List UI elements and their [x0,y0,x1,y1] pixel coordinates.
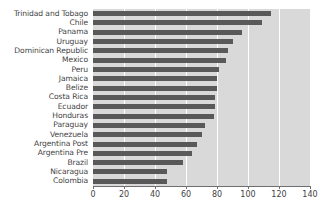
tick-mark [186,186,187,189]
category-label: Ecuador [0,102,91,111]
bar [93,95,215,100]
bar-row [93,84,310,93]
bar [93,76,217,81]
tick-label: 20 [119,190,129,199]
category-label: Brazil [0,158,91,167]
bar [93,86,217,91]
category-label: Jamaica [0,74,91,83]
bar-row [93,158,310,167]
category-label: Belize [0,84,91,93]
tick-label: 80 [212,190,222,199]
bar [93,142,197,147]
category-label: Dominican Republic [0,46,91,55]
category-label: Trinidad and Tobago [0,9,91,18]
bar-row [93,111,310,120]
bar [93,39,233,44]
tick-mark [155,186,156,189]
bar-row [93,102,310,111]
bar-row [93,139,310,148]
tick-label: 140 [302,190,317,199]
bar [93,104,215,109]
bar [93,123,205,128]
bar [93,20,262,25]
category-label: Peru [0,65,91,74]
bar [93,160,183,165]
tick-mark [217,186,218,189]
category-label: Argentina Pre [0,149,91,158]
bar-row [93,121,310,130]
category-label: Argentina Post [0,139,91,148]
tick-label: 0 [90,190,95,199]
bar-row [93,130,310,139]
bars-layer [93,9,310,186]
gridline [310,9,311,186]
bar [93,132,202,137]
tick-mark [310,186,311,189]
category-label: Mexico [0,56,91,65]
horizontal-bar-chart: Trinidad and TobagoChilePanamaUruguayDom… [0,0,322,207]
category-label: Colombia [0,177,91,186]
tick-mark [93,186,94,189]
tick-label: 100 [240,190,255,199]
category-label: Venezuela [0,130,91,139]
bar-row [93,167,310,176]
category-label: Panama [0,28,91,37]
tick-label: 40 [150,190,160,199]
bar [93,11,271,16]
bar-row [93,177,310,186]
tick-label: 60 [181,190,191,199]
plot-area [93,9,310,186]
category-label: Nicaragua [0,167,91,176]
bar [93,30,242,35]
bar-row [93,93,310,102]
bar-row [93,9,310,18]
bar-row [93,149,310,158]
bar-row [93,74,310,83]
bar-row [93,18,310,27]
bar-row [93,28,310,37]
tick-mark [248,186,249,189]
bar [93,179,167,184]
category-label: Costa Rica [0,93,91,102]
category-label: Honduras [0,111,91,120]
category-label: Paraguay [0,121,91,130]
bar [93,58,226,63]
bar [93,151,192,156]
bar [93,48,228,53]
tick-label: 120 [271,190,286,199]
bar [93,169,167,174]
category-label: Uruguay [0,37,91,46]
category-label-column: Trinidad and TobagoChilePanamaUruguayDom… [0,9,91,186]
category-label: Chile [0,18,91,27]
bar [93,114,214,119]
bar-row [93,46,310,55]
tick-mark [124,186,125,189]
bar-row [93,37,310,46]
bar-row [93,65,310,74]
bar [93,67,219,72]
bar-row [93,56,310,65]
tick-mark [279,186,280,189]
